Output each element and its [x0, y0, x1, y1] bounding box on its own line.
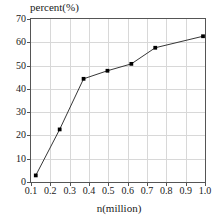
y-tick-label: 10 — [16, 154, 26, 164]
y-tick-label: 60 — [16, 37, 26, 47]
x-tick-label: 0.9 — [179, 186, 192, 196]
data-point-marker — [129, 62, 133, 66]
data-point-marker — [58, 128, 62, 132]
series-line — [36, 36, 203, 175]
plot-area: 010203040506070 0.10.20.30.40.50.60.70.8… — [30, 18, 206, 183]
x-tick-label: 1.0 — [199, 186, 212, 196]
data-point-marker — [153, 46, 157, 50]
x-tick-label: 0.6 — [121, 186, 134, 196]
y-tick-label: 30 — [16, 107, 26, 117]
y-tick-label: 70 — [16, 14, 26, 24]
data-point-marker — [201, 34, 205, 38]
data-point-marker — [82, 77, 86, 81]
x-tick-label: 0.8 — [160, 186, 173, 196]
y-tick-label: 20 — [16, 130, 26, 140]
y-tick-label: 50 — [16, 61, 26, 71]
x-axis-title: n(million) — [0, 202, 220, 215]
y-tick-label: 40 — [16, 84, 26, 94]
x-tick-label: 0.3 — [63, 186, 76, 196]
data-point-marker — [34, 174, 38, 178]
data-point-marker — [106, 69, 110, 73]
line-chart: percent(%) 010203040506070 0.10.20.30.40… — [0, 0, 220, 221]
x-tick-label: 0.1 — [25, 186, 38, 196]
x-tick-label: 0.4 — [83, 186, 96, 196]
x-tick-label: 0.7 — [141, 186, 154, 196]
y-axis-title: percent(%) — [30, 1, 79, 14]
x-tick-label: 0.5 — [102, 186, 115, 196]
x-tick-label: 0.2 — [44, 186, 57, 196]
data-series — [31, 19, 205, 182]
